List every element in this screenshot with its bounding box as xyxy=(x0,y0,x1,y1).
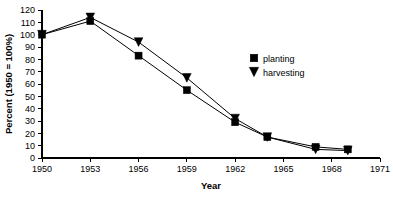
line-chart: 0102030405060708090100110120 19501953195… xyxy=(0,0,393,197)
x-tick-label: 1962 xyxy=(225,164,245,174)
series-line-harvesting xyxy=(42,17,348,150)
y-tick-label: 40 xyxy=(25,104,35,114)
x-tick-label: 1959 xyxy=(177,164,197,174)
y-tick-label: 80 xyxy=(25,55,35,65)
y-tick-label: 120 xyxy=(20,5,35,15)
data-point-harvesting xyxy=(134,38,143,47)
x-tick-label: 1956 xyxy=(129,164,149,174)
y-tick-label: 60 xyxy=(25,79,35,89)
x-tick-label: 1965 xyxy=(273,164,293,174)
x-tick-label: 1971 xyxy=(370,164,390,174)
x-axis-ticks: 19501953195619591962196519681971 xyxy=(32,158,390,174)
legend-label-planting: planting xyxy=(263,54,295,64)
data-series-group xyxy=(38,13,352,155)
y-tick-label: 20 xyxy=(25,129,35,139)
y-tick-label: 50 xyxy=(25,92,35,102)
x-tick-label: 1950 xyxy=(32,164,52,174)
legend-marker-planting xyxy=(250,54,258,62)
y-tick-label: 30 xyxy=(25,116,35,126)
y-tick-label: 70 xyxy=(25,67,35,77)
x-tick-label: 1953 xyxy=(80,164,100,174)
legend-label-harvesting: harvesting xyxy=(263,68,305,78)
y-axis-title: Percent (1950 = 100%) xyxy=(3,34,14,134)
data-point-planting xyxy=(183,87,190,94)
y-tick-label: 10 xyxy=(25,141,35,151)
chart-container: 0102030405060708090100110120 19501953195… xyxy=(0,0,393,197)
y-tick-label: 0 xyxy=(30,153,35,163)
data-point-planting xyxy=(135,52,142,59)
x-axis-title: Year xyxy=(201,180,221,191)
y-tick-label: 90 xyxy=(25,42,35,52)
chart-legend: plantingharvesting xyxy=(249,54,304,78)
y-tick-label: 110 xyxy=(21,18,35,28)
legend-marker-harvesting xyxy=(249,67,258,76)
y-axis-ticks: 0102030405060708090100110120 xyxy=(20,5,42,163)
y-tick-label: 100 xyxy=(20,30,35,40)
axis-frame xyxy=(42,10,380,158)
x-tick-label: 1968 xyxy=(322,164,342,174)
